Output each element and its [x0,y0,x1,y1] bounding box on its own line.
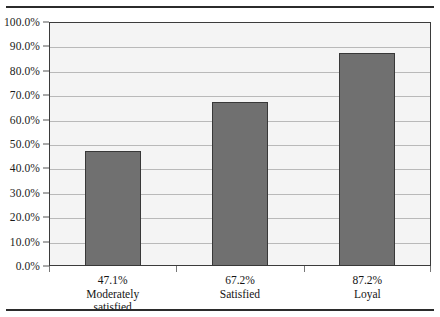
bar[interactable] [339,53,395,266]
y-axis-tick-label: 70.0% [10,89,40,101]
figure-rule-top [6,6,434,8]
y-axis-tick-label: 40.0% [10,162,40,174]
chart-figure: 100.0%90.0%80.0%70.0%60.0%50.0%40.0%30.0… [0,0,440,317]
bar-slot [176,22,303,266]
x-axis-tick-mark [304,266,305,272]
y-axis-tick-label: 60.0% [10,114,40,126]
x-axis-category-name-line: Moderately [49,288,176,302]
y-axis-tick-label: 0.0% [16,260,40,272]
bar-value-label: 67.2% [176,274,303,288]
x-axis-category-name-line: satisfied [49,301,176,315]
x-axis-category-label: 67.2%Satisfied [176,274,303,301]
y-axis-tick-label: 10.0% [10,236,40,248]
bar[interactable] [85,151,141,266]
y-axis-tick-label: 90.0% [10,40,40,52]
y-axis: 100.0%90.0%80.0%70.0%60.0%50.0%40.0%30.0… [0,22,49,266]
x-axis-category-name-line: Satisfied [176,288,303,302]
y-axis-tick-label: 30.0% [10,187,40,199]
bar-slot [49,22,176,266]
bar-slot [304,22,431,266]
x-axis-category-label: 87.2%Loyal [304,274,431,301]
bar[interactable] [212,102,268,266]
y-axis-tick-label: 50.0% [10,138,40,150]
bars-layer [49,22,431,266]
bar-value-label: 87.2% [304,274,431,288]
figure-rule-bottom [6,309,434,311]
x-axis-category-name-line: Loyal [304,288,431,302]
bar-value-label: 47.1% [49,274,176,288]
y-axis-tick-label: 100.0% [4,16,40,28]
x-axis-tick-mark [49,266,50,272]
y-axis-tick-label: 80.0% [10,65,40,77]
x-axis-tick-mark [176,266,177,272]
y-axis-tick-label: 20.0% [10,211,40,223]
x-axis: 47.1%Moderatelysatisfied67.2%Satisfied87… [49,266,431,314]
x-axis-tick-mark [430,266,431,272]
